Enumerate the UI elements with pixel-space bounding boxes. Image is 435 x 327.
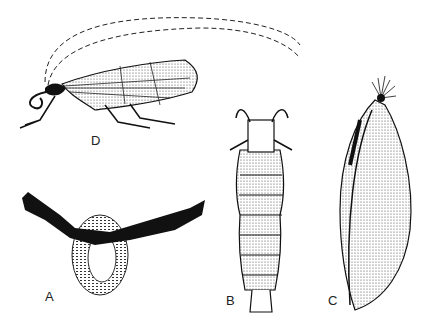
- panel-label-b: B: [226, 293, 235, 308]
- adult-caddisfly-drawing: [20, 18, 300, 128]
- egg-mass-drawing: [22, 192, 205, 295]
- larva-drawing: [230, 110, 292, 312]
- figure: D A B C: [0, 0, 435, 327]
- pupa-drawing: [340, 76, 411, 310]
- panel-label-c: C: [328, 293, 337, 308]
- illustration: [0, 0, 435, 327]
- panel-label-d: D: [91, 133, 100, 148]
- panel-label-a: A: [45, 289, 54, 304]
